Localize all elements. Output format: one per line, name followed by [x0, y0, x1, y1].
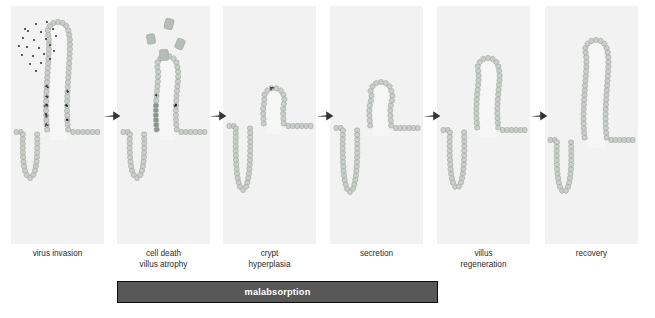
villus-cell-death-villus-atrophy — [121, 18, 207, 181]
villus-virus-invasion — [14, 20, 100, 181]
panel-label-crypt-hyperplasia: crypt hyperplasia — [223, 249, 316, 270]
villus-recovery — [548, 38, 635, 195]
panel-label-virus-invasion: virus invasion — [11, 249, 104, 260]
sloughed-cells — [146, 18, 186, 61]
arrow-5 — [530, 108, 548, 124]
panel-label-recovery: recovery — [545, 249, 638, 260]
arrow-1 — [103, 108, 121, 124]
villi-illustration-layer — [0, 0, 655, 318]
malabsorption-bar: malabsorption — [117, 281, 438, 303]
arrow-2 — [209, 108, 227, 124]
malabsorption-bar-label: malabsorption — [245, 287, 311, 297]
villus-secretion — [334, 80, 420, 195]
villus-crypt-hyperplasia — [227, 85, 313, 192]
villus-villus-regeneration — [441, 56, 527, 191]
arrow-3 — [316, 108, 334, 124]
arrow-4 — [423, 108, 441, 124]
panel-label-cell-death-villus-atrophy: cell death villus atrophy — [117, 249, 210, 270]
diagram-canvas: virus invasioncell death villus atrophyc… — [0, 0, 655, 318]
panel-label-secretion: secretion — [330, 249, 423, 260]
panel-label-villus-regeneration: villus regeneration — [437, 249, 530, 270]
